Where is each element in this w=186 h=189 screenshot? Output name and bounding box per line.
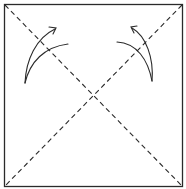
origami-diagram <box>0 0 186 189</box>
